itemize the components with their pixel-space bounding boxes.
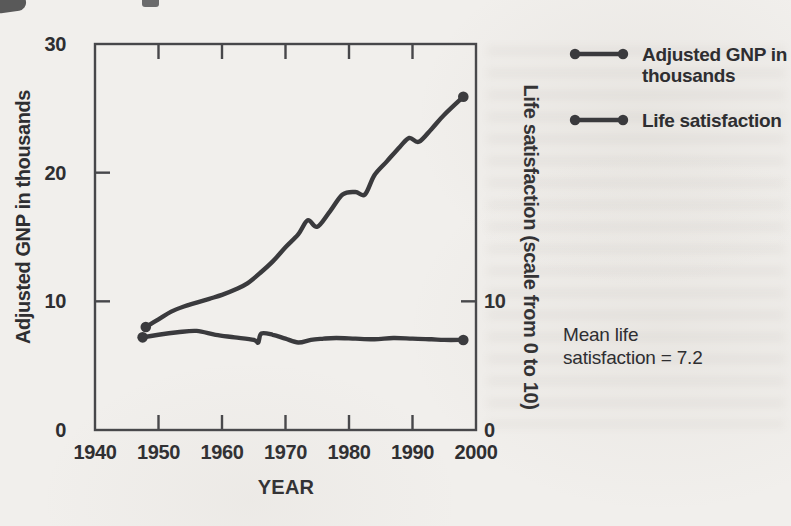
- x-tick-label-1960: 1960: [201, 441, 244, 463]
- tick-labels: 19401950196019701980199020000102030010: [45, 33, 506, 463]
- x-tick-label-1990: 1990: [391, 441, 434, 463]
- annotation-line1: Mean life: [563, 324, 638, 345]
- series-satisfaction-end-dot: [458, 335, 469, 346]
- left-tick-label-20: 20: [45, 162, 67, 184]
- series-line-gnp: [146, 97, 464, 327]
- series-line-satisfaction: [143, 331, 464, 343]
- tick-marks: [96, 45, 475, 429]
- legend-label-satisfaction: Life satisfaction: [642, 110, 782, 131]
- x-tick-label-1940: 1940: [74, 441, 117, 463]
- right-tick-label-10: 10: [484, 290, 506, 312]
- plot-frame: [95, 44, 476, 430]
- satisfaction-line-symbol-icon: [568, 112, 630, 128]
- x-tick-label-1970: 1970: [264, 441, 307, 463]
- legend-label-gnp-line1: Adjusted GNP in: [642, 44, 787, 65]
- series-gnp-end-dot: [458, 91, 469, 102]
- annotation-line2: satisfaction = 7.2: [563, 347, 703, 368]
- legend-label-gnp: Adjusted GNP in thousands: [642, 44, 787, 86]
- mean-satisfaction-annotation: Mean life satisfaction = 7.2: [563, 323, 703, 369]
- scan-artifact-dash: [142, 0, 159, 7]
- x-tick-label-2000: 2000: [455, 441, 498, 463]
- x-axis-title: YEAR: [258, 476, 315, 498]
- axes: [95, 44, 476, 430]
- left-tick-label-10: 10: [45, 290, 67, 312]
- legend: Adjusted GNP in thousands Life satisfact…: [568, 44, 787, 155]
- x-tick-label-1980: 1980: [328, 441, 371, 463]
- gnp-line-symbol-icon: [568, 46, 630, 62]
- left-tick-label-0: 0: [55, 419, 66, 441]
- data-series: [137, 91, 468, 345]
- legend-item-satisfaction: Life satisfaction: [568, 110, 787, 131]
- right-axis-title: Life satisfaction (scale from 0 to 10): [520, 85, 542, 410]
- left-tick-label-30: 30: [45, 33, 67, 55]
- series-gnp-start-dot: [141, 322, 152, 333]
- left-axis-title: Adjusted GNP in thousands: [12, 90, 34, 344]
- legend-item-gnp: Adjusted GNP in thousands: [568, 44, 787, 86]
- legend-label-gnp-line2: thousands: [642, 65, 735, 86]
- series-satisfaction-start-dot: [137, 332, 148, 343]
- x-tick-label-1950: 1950: [137, 441, 180, 463]
- right-tick-label-0: 0: [484, 419, 495, 441]
- legend-label-satisfaction-line1: Life satisfaction: [642, 110, 782, 131]
